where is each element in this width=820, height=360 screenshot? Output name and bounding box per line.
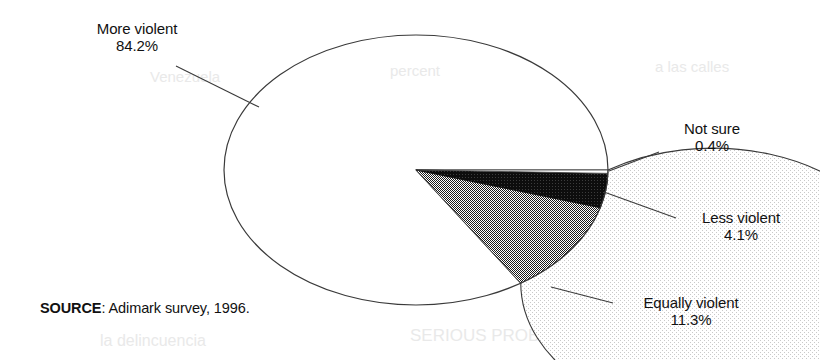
pie-label-not-sure-value: 0.4% (662, 137, 762, 154)
pie-label-not-sure: Not sure 0.4% (662, 120, 762, 154)
pie-label-less-violent-value: 4.1% (679, 226, 803, 243)
leader-line-more-violent (176, 66, 259, 107)
pie-label-not-sure-name: Not sure (684, 120, 740, 137)
pie-label-more-violent: More violent 84.2% (72, 20, 202, 54)
source-keyword: SOURCE (40, 300, 101, 316)
source-note: SOURCE: Adimark survey, 1996. (40, 300, 250, 316)
pie-label-equally-violent-value: 11.3% (616, 311, 766, 328)
source-text: : Adimark survey, 1996. (101, 300, 249, 316)
pie-label-more-violent-value: 84.2% (72, 37, 202, 54)
pie-label-less-violent: Less violent 4.1% (679, 209, 803, 243)
pie-chart-figure: Venezuela percent a las calles seguridad… (0, 0, 820, 360)
pie-label-equally-violent: Equally violent 11.3% (616, 294, 766, 328)
pie-slices (416, 148, 820, 360)
pie-label-less-violent-name: Less violent (702, 209, 780, 226)
pie-label-equally-violent-name: Equally violent (643, 294, 738, 311)
pie-label-more-violent-name: More violent (97, 20, 178, 37)
